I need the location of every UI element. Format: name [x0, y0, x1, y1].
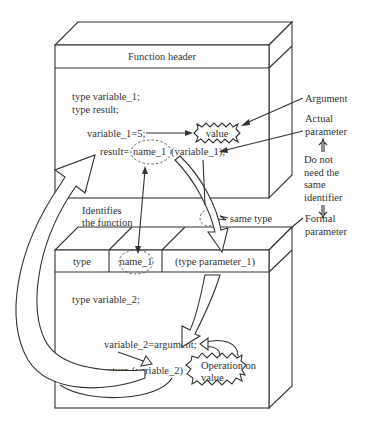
value-burst-label: value	[206, 128, 229, 139]
operation-burst-line-1: Operation on	[201, 360, 257, 371]
code-line-declare-result: type result;	[72, 104, 119, 115]
same-type-label: same type	[230, 213, 273, 224]
argument-label: Argument	[305, 93, 347, 104]
caller-box-top-face	[55, 22, 292, 45]
formal-parameter-label-2: parameter	[305, 226, 347, 237]
callee-header-type: type	[73, 256, 91, 267]
formal-parameter-label-1: Formal	[305, 213, 335, 224]
code-line-declare-variable-2: type variable_2;	[72, 294, 140, 305]
callee-header-parameters: (type parameter_1)	[175, 256, 256, 268]
do-not-need-line-3: same	[304, 179, 326, 190]
callee-header-name: name_1	[119, 256, 152, 267]
do-not-need-line-1: Do not	[304, 154, 333, 165]
code-line-call-name: name_1	[133, 146, 166, 157]
identifies-function-line-2: the function	[82, 217, 133, 228]
hollow-up-arrow-icon	[319, 139, 327, 152]
do-not-need-line-4: identifier	[304, 192, 343, 203]
code-line-result-assign: result=	[100, 146, 129, 157]
actual-parameter-label-2: parameter	[305, 126, 347, 137]
actual-parameter-label-1: Actual	[305, 113, 333, 124]
callee-box-side-face	[269, 227, 292, 408]
code-line-assign-variable-1: variable_1=5;	[87, 128, 145, 139]
function-diagram: Function header type variable_1; type re…	[0, 0, 365, 423]
caller-box-side-face	[269, 22, 292, 198]
code-line-declare-variable-1: type variable_1;	[72, 91, 140, 102]
identifies-function-line-1: Identifies	[82, 205, 122, 216]
do-not-need-line-2: need the	[304, 167, 340, 178]
caller-header-label: Function header	[128, 51, 196, 62]
same-type-zigzag-icon	[218, 216, 228, 220]
operation-burst-line-2: value	[201, 372, 224, 383]
